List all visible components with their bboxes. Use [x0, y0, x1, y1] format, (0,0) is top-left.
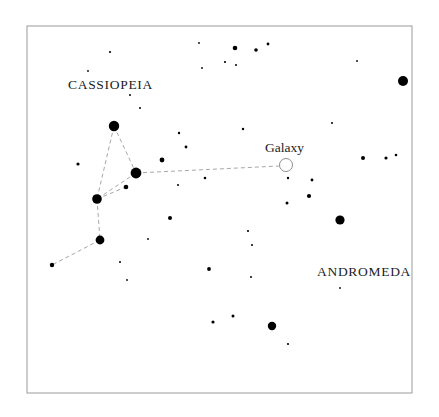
star-marker-bright: [92, 194, 102, 204]
star-marker-medium: [361, 156, 365, 160]
star-marker-faint: [198, 42, 200, 44]
star-marker-bright: [131, 168, 142, 179]
star-marker-medium: [50, 263, 54, 267]
sky-chart-canvas: CASSIOPEIAANDROMEDAGalaxy: [0, 0, 439, 417]
star-marker-faint: [185, 146, 188, 149]
star-marker-faint: [235, 64, 237, 66]
star-marker-faint: [147, 238, 149, 240]
star-marker-faint: [250, 276, 252, 278]
star-marker-faint: [356, 60, 358, 62]
star-chart-page: CASSIOPEIAANDROMEDAGalaxy: [0, 0, 439, 417]
star-marker-faint: [139, 107, 141, 109]
star-marker-faint: [311, 179, 314, 182]
star-marker-faint: [224, 61, 226, 63]
star-marker-medium: [160, 158, 165, 163]
star-marker-medium: [233, 46, 238, 51]
label-galaxy: Galaxy: [265, 140, 304, 155]
star-marker-medium: [168, 216, 172, 220]
label-cassiopeia: CASSIOPEIA: [68, 77, 153, 92]
star-marker-faint: [267, 43, 270, 46]
star-marker-faint: [87, 70, 89, 72]
star-marker-medium: [207, 267, 211, 271]
star-marker-faint: [232, 315, 235, 318]
star-marker-faint: [201, 67, 203, 69]
star-marker-medium: [307, 194, 311, 198]
star-marker-faint: [247, 230, 249, 232]
star-marker-faint: [109, 51, 111, 53]
star-marker-faint: [384, 156, 387, 159]
star-marker-faint: [339, 287, 341, 289]
star-marker-faint: [76, 162, 79, 165]
star-marker-medium: [124, 185, 129, 190]
star-marker-medium: [254, 48, 258, 52]
star-marker-bright: [109, 121, 119, 131]
star-marker-bright: [335, 215, 344, 224]
star-marker-faint: [242, 128, 244, 130]
star-marker-faint: [395, 154, 398, 157]
star-marker-faint: [204, 177, 207, 180]
star-marker-faint: [286, 202, 289, 205]
star-marker-faint: [178, 132, 180, 134]
star-marker-bright: [398, 76, 408, 86]
star-marker-faint: [331, 122, 333, 124]
star-marker-faint: [119, 261, 121, 263]
star-marker-faint: [177, 184, 179, 186]
star-marker-faint: [211, 320, 214, 323]
label-andromeda: ANDROMEDA: [317, 264, 411, 279]
star-marker-faint: [129, 94, 131, 96]
star-marker-faint: [287, 343, 289, 345]
star-marker-bright: [268, 322, 276, 330]
star-marker-faint: [251, 244, 253, 246]
star-marker-faint: [126, 279, 128, 281]
star-marker-faint: [287, 177, 289, 179]
star-marker-bright: [96, 236, 105, 245]
